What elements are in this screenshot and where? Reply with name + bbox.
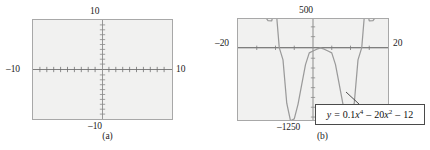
equation-term-1-exp: 4 <box>360 108 364 116</box>
figure-two-panel-graphs: 10 –10 –10 10 (a) <box>0 0 430 150</box>
axis-label-b-top: 500 <box>299 5 313 15</box>
equation-term-1-coef: 0.1 <box>343 109 356 120</box>
equation-term-2-coef: 20 <box>374 109 384 120</box>
axis-label-a-right: 10 <box>176 64 185 74</box>
equation-term-2-exp: 2 <box>389 108 393 116</box>
equation-equals: = <box>334 109 340 120</box>
axis-label-a-left: –10 <box>6 64 20 74</box>
panel-caption-a: (a) <box>0 131 215 141</box>
axis-label-a-bottom: –10 <box>88 121 102 131</box>
equation-lhs: y <box>327 109 331 120</box>
panel-b: 500 –1250 –20 20 y=0.1x4–20x2–12 (b) <box>215 0 430 150</box>
equation-term-2-sign: – <box>366 109 371 120</box>
equation-term-3-coef: 12 <box>403 109 413 120</box>
equation-term-3-sign: – <box>395 109 400 120</box>
equation-text: y=0.1x4–20x2–12 <box>327 109 414 120</box>
axis-label-b-right: 20 <box>393 38 402 48</box>
axis-label-a-top: 10 <box>90 6 99 16</box>
equation-callout-box: y=0.1x4–20x2–12 <box>315 104 425 125</box>
panel-caption-b: (b) <box>215 131 430 141</box>
axis-label-b-left: –20 <box>215 38 229 48</box>
axes-graphic-a <box>33 20 172 119</box>
panel-a: 10 –10 –10 10 (a) <box>0 0 215 150</box>
plot-area-a <box>32 19 173 120</box>
